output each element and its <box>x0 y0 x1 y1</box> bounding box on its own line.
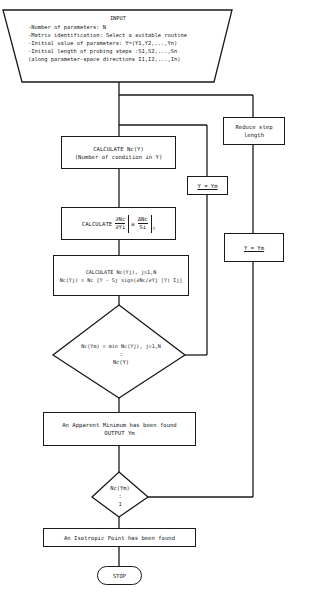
reduce-step-line-1: Reduce step <box>235 123 272 131</box>
input-line-5: (along parameter-space directions I1,I2,… <box>28 55 181 63</box>
calculate-ncyj-box: CALCULATE Nc(Yj), j=1,N Nc(Yj) = Nc [Y -… <box>53 255 189 296</box>
input-title: INPUT <box>70 14 166 22</box>
isotropic-point-box: An Isotropic Point has been found <box>43 528 196 547</box>
min-check-line-3: Nc(Y) <box>58 358 184 366</box>
apparent-minimum-box: An Apparent Minimum has been found OUTPU… <box>43 412 196 446</box>
min-check-line-1: Nc(Ym) = min Nc(Yj), j=1,N <box>58 342 184 350</box>
derivative-lhs-den: ∂Yi <box>115 224 125 231</box>
calculate-nc-line-1: CALCULATE Nc(Y) <box>93 145 144 153</box>
isotropic-check-line-3: 1 <box>92 500 148 508</box>
input-line-4: -Initial length of probing steps :S1,S2,… <box>28 47 177 55</box>
input-line-2: -Matrix identification: Select a suitabl… <box>28 31 187 39</box>
min-check-line-2: : <box>58 350 184 358</box>
derivative-label: CALCULATE <box>82 220 112 228</box>
input-line-1: -Number of parameters: N <box>28 23 106 31</box>
derivative-rhs-num: ΔNc <box>138 216 148 224</box>
apparent-minimum-line-1: An Apparent Minimum has been found <box>62 421 177 429</box>
isotropic-check-line-1: Nc(Ym) <box>92 484 148 492</box>
calculate-derivative-box: CALCULATE ∂Nc ∂Yi ≅ ΔNc Si Y <box>61 207 176 240</box>
stop-terminal: STOP <box>97 566 142 585</box>
derivative-sub: Y <box>151 215 155 233</box>
calculate-nc-box: CALCULATE Nc(Y) (Number of condition in … <box>61 136 176 169</box>
stop-text: STOP <box>113 572 126 580</box>
set-y-ym-right-box: Y = Ym <box>224 233 284 262</box>
derivative-eq: ≅ <box>128 215 134 233</box>
derivative-lhs: ∂Nc ∂Yi <box>115 216 125 231</box>
calculate-ncyj-line-1: CALCULATE Nc(Yj), j=1,N <box>86 268 157 276</box>
calculate-nc-line-2: (Number of condition in Y) <box>75 153 163 161</box>
reduce-step-line-2: length <box>244 131 264 139</box>
set-y-ym-right-text: Y = Ym <box>244 244 264 252</box>
apparent-minimum-line-2: OUTPUT Ym <box>104 429 134 437</box>
isotropic-point-text: An Isotropic Point has been found <box>64 534 175 542</box>
calculate-ncyj-line-2: Nc(Yj) = Nc [Y - Sj sign(∂Nc/∂Yj |Y) Ij] <box>60 276 183 284</box>
derivative-rhs-den: Si <box>138 224 148 231</box>
isotropic-check-line-2: : <box>92 492 148 500</box>
input-line-3: -Initial value of parameters: Y=(Y1,Y2,.… <box>28 39 177 47</box>
set-y-ym-left-text: Y = Ym <box>197 182 217 190</box>
derivative-rhs: ΔNc Si <box>138 216 148 231</box>
set-y-ym-left-box: Y = Ym <box>187 176 228 195</box>
reduce-step-box: Reduce step length <box>223 117 285 145</box>
derivative-lhs-num: ∂Nc <box>115 216 125 224</box>
